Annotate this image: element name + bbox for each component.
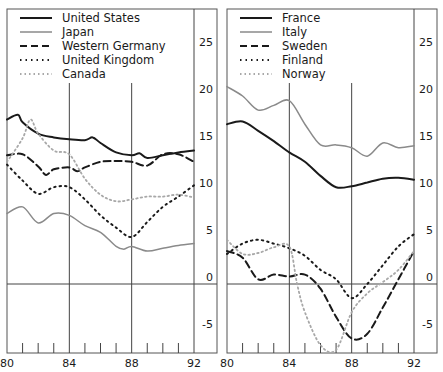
y-tick-label: -5 — [202, 318, 213, 331]
y-tick-label: 25 — [419, 36, 433, 49]
series-france — [227, 121, 414, 188]
series-western-germany — [7, 153, 194, 175]
legend-label: Norway — [282, 67, 326, 81]
x-tick-label: 92 — [187, 357, 201, 370]
y-tick-label: 0 — [426, 271, 433, 284]
legend-label: France — [282, 11, 320, 25]
y-tick-label: 5 — [206, 224, 213, 237]
legend-label: United States — [62, 11, 140, 25]
y-tick-label: 10 — [419, 177, 433, 190]
legend-label: Canada — [62, 67, 106, 81]
right-grid — [227, 9, 437, 353]
right-legend: FranceItalySwedenFinlandNorway — [240, 11, 327, 81]
series-norway — [227, 240, 414, 353]
x-tick-label: 80 — [0, 357, 14, 370]
series-sweden — [227, 251, 414, 340]
legend-label: Japan — [61, 25, 94, 39]
y-tick-label: 15 — [419, 130, 433, 143]
y-tick-label: 25 — [199, 36, 213, 49]
y-tick-label: 5 — [426, 224, 433, 237]
y-tick-label: 0 — [206, 271, 213, 284]
legend-label: Italy — [282, 25, 307, 39]
x-tick-label: 80 — [220, 357, 234, 370]
legend-label: United Kingdom — [62, 53, 154, 67]
y-tick-label: 15 — [199, 130, 213, 143]
series-united-kingdom — [7, 165, 194, 237]
right-series — [227, 87, 414, 353]
left-series — [7, 115, 194, 251]
right-panel-frame — [227, 9, 437, 353]
x-tick-label: 84 — [282, 357, 296, 370]
right-y-axis: 2520151050-5 — [419, 36, 433, 331]
right-panel: FranceItalySwedenFinlandNorway 252015105… — [220, 9, 437, 370]
legend-label: Sweden — [282, 39, 327, 53]
series-italy — [227, 87, 414, 157]
chart-canvas: United StatesJapanWestern GermanyUnited … — [0, 0, 443, 372]
legend-label: Finland — [282, 53, 323, 67]
y-tick-label: 20 — [419, 83, 433, 96]
y-tick-label: 20 — [199, 83, 213, 96]
right-x-axis: 80848892 — [220, 357, 421, 370]
x-tick-label: 84 — [62, 357, 76, 370]
y-tick-label: -5 — [422, 318, 433, 331]
series-united-states — [7, 115, 194, 158]
series-japan — [7, 207, 194, 251]
left-x-axis: 80848892 — [0, 357, 201, 370]
x-tick-label: 88 — [345, 357, 359, 370]
left-panel: United StatesJapanWestern GermanyUnited … — [0, 9, 217, 370]
y-tick-label: 10 — [199, 177, 213, 190]
left-legend: United StatesJapanWestern GermanyUnited … — [20, 11, 166, 81]
x-tick-label: 92 — [407, 357, 421, 370]
legend-label: Western Germany — [62, 39, 166, 53]
x-tick-label: 88 — [125, 357, 139, 370]
left-y-axis: 2520151050-5 — [199, 36, 213, 331]
